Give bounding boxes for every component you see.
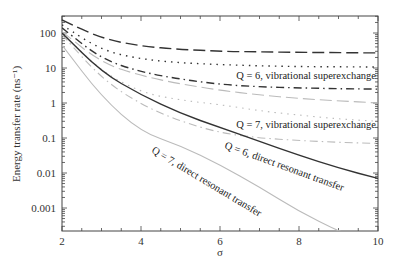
x-tick-label: 10 xyxy=(373,235,385,247)
y-tick-label: 1 xyxy=(51,97,57,109)
annotation-q6-direct: Q = 6, direct resonant transfer xyxy=(223,140,346,194)
y-tick-label: 100 xyxy=(40,27,57,39)
y-tick-label: 0.1 xyxy=(42,132,56,144)
y-tick-label: 0.01 xyxy=(37,167,56,179)
x-tick-label: 4 xyxy=(138,235,144,247)
x-tick-label: 8 xyxy=(296,235,302,247)
series-line xyxy=(62,33,378,178)
energy-transfer-chart: 2468100.0010.010.1110100 σ Energy transf… xyxy=(0,0,396,268)
series-line xyxy=(62,32,378,103)
y-tick-label: 0.001 xyxy=(31,202,56,214)
x-axis-title: σ xyxy=(217,246,223,258)
annotation-q6-vibrational: Q = 6, vibrational superexchange xyxy=(236,70,376,81)
axis-ticks: 2468100.0010.010.1110100 xyxy=(31,16,384,247)
x-tick-label: 2 xyxy=(59,235,65,247)
series-line xyxy=(62,20,378,53)
annotation-q7-vibrational: Q = 7, vibrational superexchange xyxy=(236,119,376,130)
y-axis-title: Energy transfer rate (ns⁻¹) xyxy=(10,66,23,182)
y-tick-label: 10 xyxy=(45,62,57,74)
